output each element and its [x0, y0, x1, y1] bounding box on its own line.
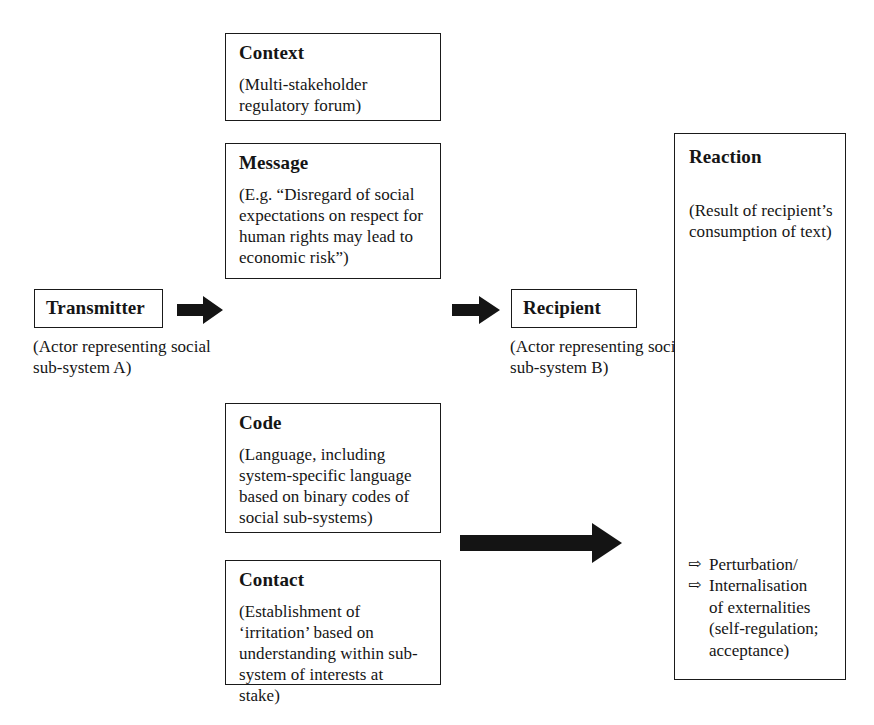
list-item: ⇨ Internalisation — [688, 575, 838, 596]
node-contact-title: Contact — [239, 569, 428, 591]
node-code-body: (Language, including system-specific lan… — [239, 444, 428, 528]
node-message-title: Message — [239, 152, 428, 174]
arrow-bullet-icon: ⇨ — [688, 575, 709, 595]
node-recipient-title: Recipient — [523, 297, 626, 319]
list-item: ⇨ Perturbation/ — [688, 554, 838, 575]
arrow-message-to-recipient — [452, 295, 500, 325]
list-item-label: Internalisation — [709, 575, 838, 596]
arrow-transmitter-to-message — [177, 295, 223, 325]
list-item-label: Perturbation/ — [709, 554, 838, 575]
node-context-body: (Multi-stakeholder regulatory forum) — [239, 74, 428, 116]
node-reaction-body: (Result of recipient’s consumption of te… — [689, 200, 833, 242]
node-transmitter-title: Transmitter — [46, 297, 152, 319]
node-reaction-bullet-list: ⇨ Perturbation/ ⇨ Internalisation of ext… — [688, 554, 838, 661]
diagram-canvas: Context (Multi-stakeholder regulatory fo… — [0, 0, 874, 725]
list-item-continuation: of externalities (self-regulation; accep… — [709, 597, 838, 661]
node-recipient: Recipient — [511, 289, 637, 328]
node-transmitter-caption: (Actor representing social sub-system A) — [33, 336, 238, 379]
arrow-contact-to-reaction — [460, 521, 622, 565]
node-message: Message (E.g. “Disregard of social expec… — [225, 143, 441, 279]
node-contact: Contact (Establishment of ‘irritation’ b… — [225, 560, 441, 685]
node-message-body: (E.g. “Disregard of social expectations … — [239, 184, 428, 268]
node-code-title: Code — [239, 412, 428, 434]
node-context-title: Context — [239, 42, 428, 64]
node-reaction-title: Reaction — [689, 146, 833, 168]
node-transmitter: Transmitter — [34, 289, 163, 328]
node-contact-body: (Establishment of ‘irritation’ based on … — [239, 601, 428, 706]
arrow-bullet-icon: ⇨ — [688, 554, 709, 574]
node-context: Context (Multi-stakeholder regulatory fo… — [225, 33, 441, 121]
node-code: Code (Language, including system-specifi… — [225, 403, 441, 533]
